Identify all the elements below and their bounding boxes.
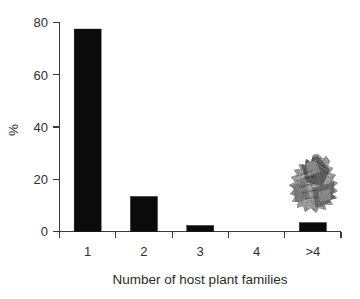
y-tick-label-40: 40 bbox=[34, 120, 48, 135]
bar-category-2 bbox=[130, 196, 157, 231]
bar-category-gt4 bbox=[299, 223, 326, 232]
chart-figure: 80 60 40 20 0 % 1 bbox=[0, 0, 360, 299]
x-tick-label-2: 2 bbox=[140, 244, 147, 259]
y-tick-label-20: 20 bbox=[34, 172, 48, 187]
x-axis-title: Number of host plant families bbox=[113, 272, 288, 287]
bar-category-1 bbox=[74, 29, 101, 231]
y-tick-label-80: 80 bbox=[34, 15, 48, 30]
y-axis-title: % bbox=[6, 124, 21, 136]
bar-category-3 bbox=[187, 225, 214, 231]
x-tick-label-3: 3 bbox=[197, 244, 204, 259]
y-tick-label-0: 0 bbox=[41, 224, 48, 239]
x-tick-label-1: 1 bbox=[84, 244, 91, 259]
x-tick-label-gt4: >4 bbox=[305, 244, 320, 259]
x-tick-label-4: 4 bbox=[253, 244, 260, 259]
y-tick-label-60: 60 bbox=[34, 68, 48, 83]
bar-chart-svg: 80 60 40 20 0 % 1 bbox=[0, 0, 360, 299]
